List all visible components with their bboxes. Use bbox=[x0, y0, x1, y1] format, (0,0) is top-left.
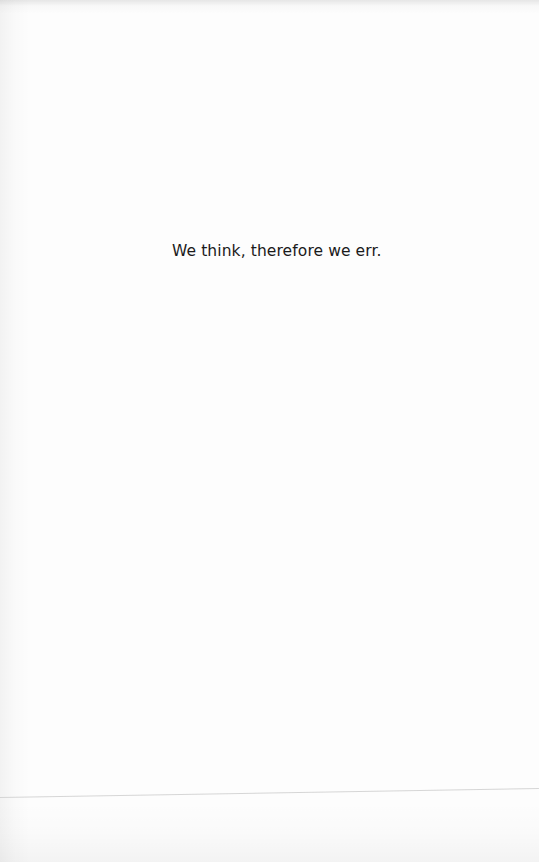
footer-divider bbox=[0, 788, 539, 798]
scan-edge-shadow bbox=[0, 0, 539, 6]
book-page: We think, therefore we err. bbox=[0, 0, 539, 862]
epigraph-text: We think, therefore we err. bbox=[172, 240, 386, 262]
